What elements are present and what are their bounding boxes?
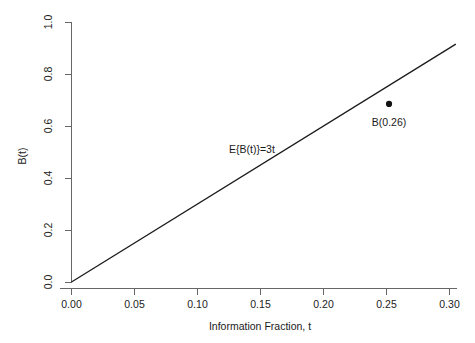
y-tick-label: 0.6 xyxy=(42,119,54,134)
x-axis-ticks xyxy=(72,289,450,296)
y-tick-label: 0.8 xyxy=(42,67,54,82)
y-tick-label: 0.4 xyxy=(42,171,54,186)
x-axis-tick-labels: 0.00 0.05 0.10 0.15 0.20 0.25 0.30 xyxy=(61,298,460,310)
y-tick-label: 1.0 xyxy=(42,15,54,30)
x-tick-label: 0.10 xyxy=(187,298,208,310)
y-axis-ticks xyxy=(65,23,72,283)
chart-canvas: 0.0 0.2 0.4 0.6 0.8 1.0 B(t) 0.00 0.05 0… xyxy=(0,0,475,343)
x-tick-label: 0.25 xyxy=(376,298,397,310)
x-axis-title: Information Fraction, t xyxy=(209,320,311,332)
expectation-line xyxy=(72,44,456,282)
data-point-b026 xyxy=(386,101,392,107)
y-tick-label: 0.2 xyxy=(42,223,54,238)
y-axis-title: B(t) xyxy=(16,148,28,165)
y-axis-tick-labels: 0.0 0.2 0.4 0.6 0.8 1.0 xyxy=(42,15,54,290)
x-tick-label: 0.00 xyxy=(61,298,82,310)
x-tick-label: 0.20 xyxy=(313,298,334,310)
y-tick-label: 0.0 xyxy=(42,275,54,290)
expectation-annotation-label: E{B(t)}=3t xyxy=(229,143,275,155)
x-tick-label: 0.05 xyxy=(124,298,145,310)
x-tick-label: 0.30 xyxy=(439,298,460,310)
point-annotation-label: B(0.26) xyxy=(372,116,406,128)
x-tick-label: 0.15 xyxy=(250,298,271,310)
chart-container: 0.0 0.2 0.4 0.6 0.8 1.0 B(t) 0.00 0.05 0… xyxy=(0,0,475,343)
